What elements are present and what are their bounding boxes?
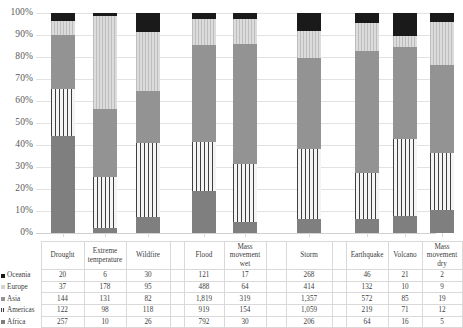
legend-row-label-asia: Asia <box>0 293 41 305</box>
header-mass-movement-dry: Mass movement dry <box>422 242 462 270</box>
stacked-bar[interactable] <box>93 13 117 233</box>
y-axis-tick-label: 90% <box>15 30 33 40</box>
stacked-bar[interactable] <box>233 13 257 233</box>
header-spacer-1 <box>170 242 184 270</box>
stacked-bar[interactable] <box>136 13 160 233</box>
cell-volcano: 16 <box>388 316 422 328</box>
stacked-bar[interactable] <box>192 13 216 233</box>
cell-mass-movement-wet: 319 <box>224 293 266 305</box>
bar-segment-asia[interactable] <box>393 47 417 139</box>
bar-segment-oceania[interactable] <box>430 13 454 22</box>
cell-drought: 257 <box>41 316 84 328</box>
bar-segment-americas[interactable] <box>93 177 117 228</box>
bar-segment-europe[interactable] <box>93 16 117 109</box>
header-extreme-temperature: Extreme temperature <box>84 242 126 270</box>
header-flood: Flood <box>184 242 224 270</box>
bar-segment-europe[interactable] <box>393 36 417 47</box>
bar-segment-asia[interactable] <box>51 35 75 90</box>
bar-column <box>136 0 160 233</box>
bar-segment-americas[interactable] <box>430 153 454 209</box>
cell-mass-movement-wet: 30 <box>224 316 266 328</box>
bar-segment-africa[interactable] <box>355 219 379 233</box>
bar-segment-oceania[interactable] <box>51 13 75 21</box>
bar-segment-africa[interactable] <box>393 216 417 233</box>
bar-segment-europe[interactable] <box>51 21 75 35</box>
stacked-bar[interactable] <box>430 13 454 233</box>
bar-column <box>393 0 417 233</box>
bar-segment-oceania[interactable] <box>233 13 257 19</box>
bar-segment-oceania[interactable] <box>192 13 216 19</box>
bar-segment-americas[interactable] <box>355 173 379 220</box>
stacked-bar[interactable] <box>355 13 379 233</box>
bar-segment-africa[interactable] <box>51 136 75 233</box>
bar-column <box>192 0 216 233</box>
bar-column <box>297 0 321 233</box>
cell-earthquake: 46 <box>346 270 388 282</box>
cell-mass-movement-dry: 5 <box>422 316 462 328</box>
y-axis-tick-label: 20% <box>15 184 33 194</box>
bar-segment-oceania[interactable] <box>393 13 417 36</box>
bar-segment-americas[interactable] <box>192 142 216 191</box>
cell-spacer <box>170 270 184 282</box>
cell-flood: 488 <box>184 281 224 293</box>
stacked-bar[interactable] <box>297 13 321 233</box>
bar-segment-asia[interactable] <box>93 109 117 177</box>
bar-segment-africa[interactable] <box>93 228 117 233</box>
cell-spacer <box>170 281 184 293</box>
cell-earthquake: 132 <box>346 281 388 293</box>
cell-spacer <box>170 316 184 328</box>
legend-row-label-africa: Africa <box>0 316 41 328</box>
bar-segment-europe[interactable] <box>430 22 454 64</box>
bar-segment-oceania[interactable] <box>93 13 117 16</box>
bar-segment-africa[interactable] <box>233 222 257 233</box>
bar-segment-asia[interactable] <box>355 51 379 173</box>
stacked-bar[interactable] <box>51 13 75 233</box>
bar-segment-americas[interactable] <box>233 164 257 222</box>
bar-series-area <box>36 0 436 241</box>
bar-segment-oceania[interactable] <box>355 13 379 23</box>
bar-segment-americas[interactable] <box>393 139 417 216</box>
cell-wildfire: 82 <box>126 293 170 305</box>
bar-segment-americas[interactable] <box>51 89 75 135</box>
bar-segment-europe[interactable] <box>136 32 160 92</box>
bar-segment-oceania[interactable] <box>136 13 160 32</box>
cell-extreme-temperature: 178 <box>84 281 126 293</box>
cell-storm: 268 <box>286 270 332 282</box>
cell-extreme-temperature: 6 <box>84 270 126 282</box>
stacked-bar[interactable] <box>393 13 417 233</box>
bar-column <box>233 0 257 233</box>
cell-mass-movement-dry: 12 <box>422 305 462 317</box>
header-earthquake: Earthquake <box>346 242 388 270</box>
bar-segment-europe[interactable] <box>233 19 257 43</box>
bar-segment-asia[interactable] <box>192 45 216 142</box>
legend-swatch-icon <box>1 297 5 301</box>
cell-extreme-temperature: 131 <box>84 293 126 305</box>
bar-segment-asia[interactable] <box>136 91 160 142</box>
bar-segment-europe[interactable] <box>192 19 216 45</box>
header-spacer-2 <box>266 242 286 270</box>
legend-row-label-europe: Europe <box>0 281 41 293</box>
bar-segment-africa[interactable] <box>430 210 454 233</box>
bar-segment-africa[interactable] <box>297 219 321 233</box>
table-corner-cell <box>0 242 41 270</box>
bar-segment-africa[interactable] <box>136 217 160 233</box>
cell-spacer <box>266 293 286 305</box>
bar-segment-americas[interactable] <box>136 143 160 217</box>
bar-segment-oceania[interactable] <box>297 13 321 31</box>
bar-segment-asia[interactable] <box>430 65 454 154</box>
cell-wildfire: 26 <box>126 316 170 328</box>
legend-label-text: Europe <box>7 283 28 291</box>
cell-flood: 792 <box>184 316 224 328</box>
bar-segment-americas[interactable] <box>297 149 321 220</box>
bar-segment-asia[interactable] <box>297 58 321 148</box>
cell-spacer <box>332 281 346 293</box>
cell-wildfire: 95 <box>126 281 170 293</box>
bar-segment-europe[interactable] <box>297 31 321 59</box>
table-row: Europe371789548864414132109 <box>0 281 462 293</box>
bar-segment-europe[interactable] <box>355 23 379 51</box>
cell-flood: 919 <box>184 305 224 317</box>
bar-segment-asia[interactable] <box>233 44 257 164</box>
bar-segment-africa[interactable] <box>192 191 216 233</box>
y-axis-tick-label: 100% <box>10 8 33 18</box>
